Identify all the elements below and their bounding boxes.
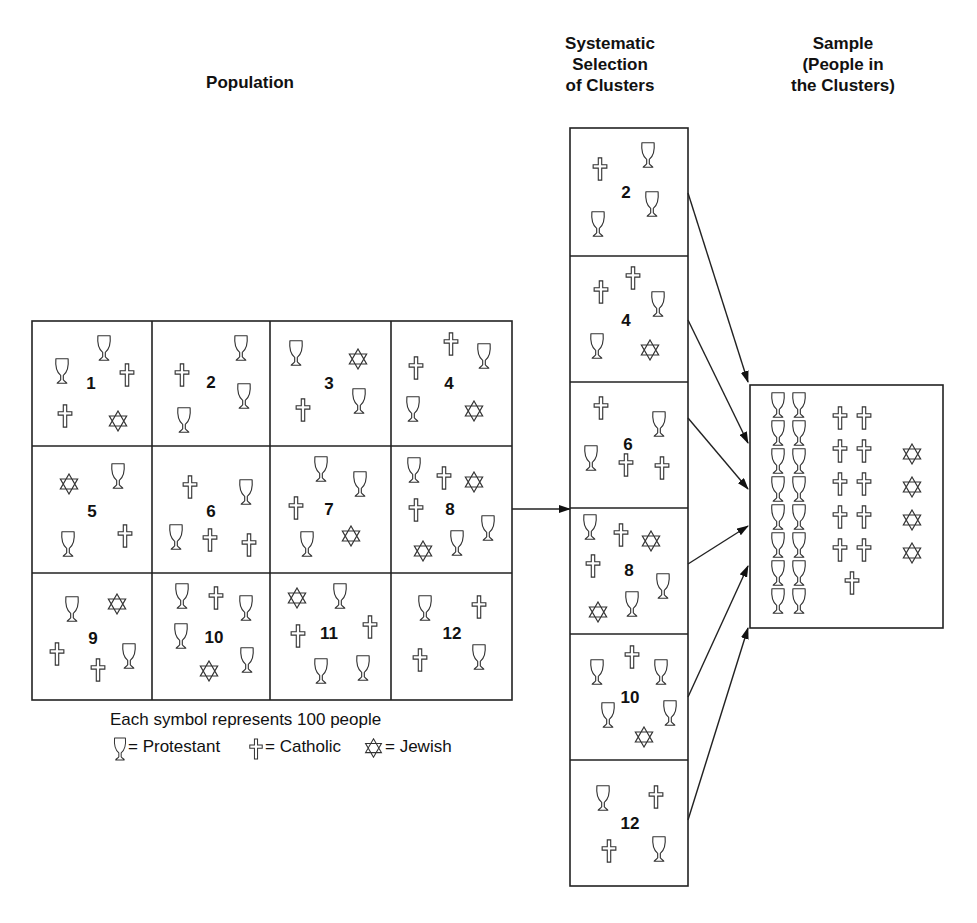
cluster-6: 6: [585, 397, 669, 479]
chalice-icon: [657, 574, 670, 599]
cluster-12: 12: [413, 596, 486, 671]
chalice-icon: [419, 596, 432, 621]
star-of-david-icon: [108, 594, 125, 614]
cluster-number: 11: [320, 624, 338, 643]
star-of-david-icon: [642, 531, 659, 551]
cluster-number: 1: [86, 374, 95, 393]
chalice-icon: [642, 143, 655, 168]
population-grid: [32, 321, 512, 700]
star-of-david-icon: [109, 411, 126, 431]
chalice-icon: [592, 212, 605, 237]
chalice-icon: [112, 464, 125, 489]
cross-icon: [50, 643, 64, 665]
cross-icon: [120, 364, 134, 386]
selected-clusters: 24681012: [584, 143, 677, 862]
cross-icon: [857, 440, 871, 462]
chalice-icon: [98, 336, 111, 361]
cross-icon: [594, 397, 608, 419]
legend-note: Each symbol represents 100 people: [110, 710, 381, 730]
cross-icon: [614, 524, 628, 546]
star-of-david-icon: [903, 543, 920, 563]
chalice-icon: [793, 393, 806, 418]
cross-icon: [625, 646, 639, 668]
cluster-number: 12: [621, 814, 640, 833]
star-of-david-icon: [903, 510, 920, 530]
cluster-number: 2: [206, 373, 215, 392]
chalice-icon: [478, 344, 491, 369]
cluster-number: 10: [205, 628, 224, 647]
chalice-icon: [653, 412, 666, 437]
population-clusters: 123456789101112: [50, 333, 494, 683]
chalice-icon: [56, 359, 69, 384]
legend-catholic-label: = Catholic: [265, 737, 341, 757]
cluster-5: 5: [60, 464, 131, 557]
cluster-9: 9: [50, 594, 135, 681]
cross-icon: [203, 529, 217, 551]
chalice-icon: [772, 421, 785, 446]
chalice-icon: [482, 516, 495, 541]
cluster-number: 10: [621, 688, 640, 707]
cross-icon: [845, 572, 859, 594]
chalice-icon: [353, 389, 366, 414]
cluster-number: 5: [87, 502, 96, 521]
chalice-icon: [772, 533, 785, 558]
cross-icon: [118, 525, 132, 547]
chalice-icon: [178, 408, 191, 433]
star-of-david-icon: [200, 661, 217, 681]
chalice-icon: [451, 531, 464, 556]
cluster-2: 2: [592, 143, 659, 237]
chalice-icon: [772, 589, 785, 614]
cross-icon: [363, 616, 377, 638]
star-of-david-icon: [641, 340, 658, 360]
chalice-icon: [235, 336, 248, 361]
cluster-number: 8: [445, 500, 454, 519]
chalice-icon: [176, 584, 189, 609]
cross-icon: [437, 467, 451, 489]
cross-icon: [626, 267, 640, 289]
chalice-icon: [772, 449, 785, 474]
cluster-number: 9: [88, 629, 97, 648]
cross-icon: [649, 786, 663, 808]
cross-icon: [833, 539, 847, 561]
star-of-david-icon: [903, 477, 920, 497]
cross-icon: [472, 596, 486, 618]
cluster-2: 2: [175, 336, 250, 433]
chalice-icon: [772, 393, 785, 418]
chalice-icon: [772, 561, 785, 586]
cross-icon: [833, 407, 847, 429]
cross-icon: [409, 499, 423, 521]
cluster-6: 6: [170, 476, 256, 556]
cluster-number: 3: [324, 374, 333, 393]
cross-icon: [413, 649, 427, 671]
cluster-1: 1: [56, 336, 134, 431]
chalice-icon: [241, 648, 254, 673]
chalice-icon: [408, 458, 421, 483]
star-of-david-icon: [414, 541, 431, 561]
chalice-icon: [473, 645, 486, 670]
cluster-number: 6: [206, 502, 215, 521]
cluster-8: 8: [584, 515, 670, 622]
chalice-icon: [591, 660, 604, 685]
chalice-icon: [407, 397, 420, 422]
chalice-icon: [334, 584, 347, 609]
star-of-david-icon: [288, 588, 305, 608]
chalice-icon: [793, 589, 806, 614]
cross-icon: [296, 399, 310, 421]
cross-icon: [857, 539, 871, 561]
selection-to-sample-arrows: [688, 193, 748, 820]
chalice-icon: [301, 532, 314, 557]
cluster-number: 4: [444, 374, 454, 393]
cross-icon: [291, 625, 305, 647]
cross-icon: [857, 473, 871, 495]
cluster-number: 12: [443, 624, 462, 643]
chalice-icon: [591, 334, 604, 359]
chalice-icon: [584, 515, 597, 540]
cross-icon: [857, 407, 871, 429]
sample-symbols: [772, 393, 921, 614]
cluster-4: 4: [407, 333, 491, 421]
cross-icon: [833, 506, 847, 528]
cross-icon: [444, 333, 458, 355]
legend-chalice-icon: [114, 738, 125, 760]
chalice-icon: [793, 561, 806, 586]
chalice-icon: [357, 656, 370, 681]
